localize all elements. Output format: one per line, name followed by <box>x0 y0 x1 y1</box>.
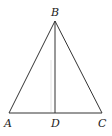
triangle-diagram: B A D C <box>0 0 112 136</box>
label-c: C <box>98 117 107 130</box>
label-d: D <box>50 117 60 130</box>
label-b: B <box>50 6 59 19</box>
segment-ab <box>9 21 55 113</box>
segment-bc <box>55 21 102 113</box>
label-a: A <box>3 117 12 130</box>
